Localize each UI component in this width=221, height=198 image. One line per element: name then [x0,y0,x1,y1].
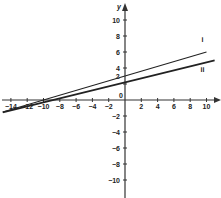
y-tick-label: 6 [116,49,120,56]
chart: −14−12−10−8−6−4−20246810−10−8−6−4−246810… [0,0,221,198]
x-axis-arrow-icon [214,97,221,103]
y-tick-label: 10 [112,17,120,24]
x-tick-label: −4 [88,103,96,110]
y-tick-label: 8 [116,33,120,40]
x-tick-label: 10 [203,103,211,110]
y-tick-label: 4 [116,65,120,72]
x-tick-label: 2 [139,103,143,110]
y-tick-label: −10 [108,177,120,184]
x-tick-label: −6 [72,103,80,110]
x-tick-label: 8 [188,103,192,110]
x-tick-label: 0 [119,92,123,99]
y-axis-arrow-icon [122,3,128,11]
axes [2,3,221,198]
y-tick-label: −8 [112,161,120,168]
x-tick-label: 4 [156,103,160,110]
tick-labels: −14−12−10−8−6−4−20246810−10−8−6−4−246810… [5,3,211,184]
y-axis-label: y [116,3,122,11]
annotation-label: i [201,36,203,43]
annotation-label: 2 [116,73,120,80]
annotation-label: ii [200,66,204,73]
x-tick-label: −8 [56,103,64,110]
x-tick-label: −2 [105,103,113,110]
y-tick-label: −6 [112,145,120,152]
x-tick-label: 6 [172,103,176,110]
y-tick-label: −2 [112,113,120,120]
y-tick-label: −4 [112,129,120,136]
